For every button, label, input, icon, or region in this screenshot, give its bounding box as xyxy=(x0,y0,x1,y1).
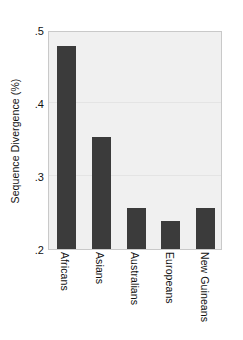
plot-area xyxy=(48,31,222,250)
bar-chart-figure: Sequence Divergence (%) .5.4.3.2 African… xyxy=(0,0,243,340)
bar xyxy=(196,208,215,249)
x-axis-tick: New Guineans xyxy=(198,252,212,340)
bar xyxy=(161,221,180,249)
bar xyxy=(127,208,146,249)
x-axis-tick-label: Australians xyxy=(129,252,141,305)
x-axis-tick: Asians xyxy=(93,252,107,340)
x-axis-tick-labels: AfricansAsiansAustraliansEuropeansNew Gu… xyxy=(48,252,222,340)
y-axis-title: Sequence Divergence (%) xyxy=(4,31,26,250)
y-axis-tick-label: .4 xyxy=(26,98,47,110)
x-axis-tick: Africans xyxy=(58,252,72,340)
x-axis-tick: Australians xyxy=(128,252,142,340)
bar-series xyxy=(49,32,221,249)
x-axis-tick-label: Europeans xyxy=(164,252,176,304)
x-axis-tick-label: New Guineans xyxy=(199,252,211,322)
y-axis-tick-label: .5 xyxy=(26,25,47,37)
bar xyxy=(92,137,111,249)
y-axis-tick-labels: .5.4.3.2 xyxy=(26,0,47,340)
bar xyxy=(57,46,76,249)
y-axis-title-text: Sequence Divergence (%) xyxy=(9,78,21,203)
y-axis-tick-label: .2 xyxy=(26,244,47,256)
y-axis-tick-label: .3 xyxy=(26,171,47,183)
x-axis-tick-label: Asians xyxy=(94,252,106,284)
x-axis-tick: Europeans xyxy=(163,252,177,340)
x-axis-tick-label: Africans xyxy=(59,252,71,291)
